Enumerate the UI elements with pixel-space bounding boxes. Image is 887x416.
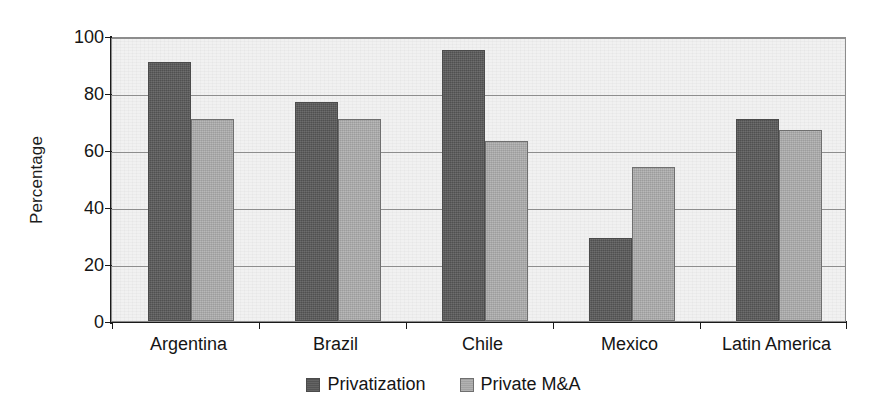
- x-axis-tick-mark: [259, 322, 260, 329]
- gridline: [112, 38, 845, 39]
- bar: [589, 238, 632, 321]
- legend-swatch-icon: [306, 378, 320, 392]
- x-axis-tick-mark: [846, 322, 847, 329]
- x-axis-category-label: Chile: [462, 334, 503, 355]
- bar: [338, 119, 381, 321]
- x-axis-category-label: Mexico: [601, 334, 658, 355]
- bar: [148, 62, 191, 321]
- y-axis-tick-mark: [105, 265, 112, 266]
- bar: [485, 141, 528, 321]
- x-axis-category-label: Latin America: [722, 334, 831, 355]
- y-axis-tick-labels: 020406080100: [48, 0, 111, 416]
- legend-item: Private M&A: [460, 374, 581, 395]
- y-axis-tick-mark: [105, 94, 112, 95]
- x-axis-tick-mark: [553, 322, 554, 329]
- legend-label: Private M&A: [481, 374, 581, 395]
- bar: [442, 50, 485, 321]
- y-axis-tick-mark: [105, 208, 112, 209]
- bar-chart-figure: Percentage 020406080100 ArgentinaBrazilC…: [0, 0, 887, 416]
- legend-item: Privatization: [306, 374, 425, 395]
- plot-area: [111, 37, 846, 322]
- bar: [632, 167, 675, 321]
- legend-swatch-icon: [460, 378, 474, 392]
- bar: [736, 119, 779, 321]
- x-axis-category-label: Argentina: [150, 334, 227, 355]
- y-axis-title: Percentage: [27, 136, 47, 224]
- bar: [191, 119, 234, 321]
- x-axis-tick-mark: [112, 322, 113, 329]
- x-axis-tick-mark: [700, 322, 701, 329]
- y-axis-tick-mark: [105, 37, 112, 38]
- chart-legend: PrivatizationPrivate M&A: [0, 374, 887, 395]
- y-axis-tick-mark: [105, 322, 112, 323]
- x-axis-category-label: Brazil: [313, 334, 358, 355]
- y-axis-tick-mark: [105, 151, 112, 152]
- bar: [779, 130, 822, 321]
- x-axis-tick-mark: [406, 322, 407, 329]
- bar: [295, 102, 338, 321]
- legend-label: Privatization: [327, 374, 425, 395]
